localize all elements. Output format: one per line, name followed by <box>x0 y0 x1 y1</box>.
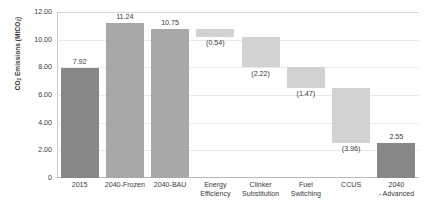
bar-value-label: (3.96) <box>342 144 361 153</box>
bar-column[interactable]: (1.47) <box>283 12 328 178</box>
x-axis-category-label: 2015 <box>57 181 102 190</box>
bar-value-label: 2.55 <box>389 132 403 141</box>
bar-series: 7.9211.2410.75(0.54)(2.22)(1.47)(3.96)2.… <box>57 12 419 178</box>
y-axis-tick-label: 10.00 <box>34 36 52 44</box>
y-axis-tick-label: 4.00 <box>38 119 52 127</box>
bar-column[interactable]: 11.24 <box>102 12 147 178</box>
bar-total[interactable] <box>61 68 99 178</box>
bar-value-label: 10.75 <box>161 18 179 27</box>
bar-value-label: (0.54) <box>206 38 225 47</box>
y-axis-title: CO2 Emissions (MtCO2) <box>14 0 21 109</box>
bar-column[interactable]: (2.22) <box>238 12 283 178</box>
bar-value-label: 7.92 <box>73 57 87 66</box>
plot-area: 02.004.006.008.0010.0012.00 7.9211.2410.… <box>57 12 419 178</box>
x-axis-category-labels: 20152040-Frozen2040-BAUEnergyEfficiencyC… <box>57 181 419 209</box>
y-axis-tick-label: 8.00 <box>38 63 52 71</box>
x-axis-category-label: 2040- Advanced <box>374 181 419 200</box>
y-axis-tick-label: 6.00 <box>38 91 52 99</box>
y-axis-tick-label: 2.00 <box>38 146 52 154</box>
y-axis-tick-label: 0 <box>48 174 52 182</box>
bar-delta[interactable] <box>242 37 280 68</box>
x-axis-category-label: 2040-Frozen <box>102 181 147 190</box>
bar-column[interactable]: (0.54) <box>193 12 238 178</box>
bar-total[interactable] <box>377 143 415 178</box>
x-axis-category-label: ClinkerSubstitution <box>238 181 283 200</box>
bar-column[interactable]: 2.55 <box>374 12 419 178</box>
x-axis-category-label: EnergyEfficiency <box>193 181 238 200</box>
bar-value-label: 11.24 <box>116 12 133 21</box>
x-axis-category-label: CCUS <box>329 181 374 190</box>
y-axis-tick-label: 12.00 <box>34 8 52 16</box>
bar-value-label: (1.47) <box>296 89 315 98</box>
bar-column[interactable]: 7.92 <box>57 12 102 178</box>
bar-total[interactable] <box>106 23 144 178</box>
bar-column[interactable]: (3.96) <box>329 12 374 178</box>
bar-delta[interactable] <box>196 29 234 36</box>
bar-value-label: (2.22) <box>251 69 270 78</box>
bar-delta[interactable] <box>332 88 370 143</box>
bar-delta[interactable] <box>287 67 325 87</box>
bar-total[interactable] <box>151 29 189 178</box>
x-axis-category-label: 2040-BAU <box>148 181 193 190</box>
bar-column[interactable]: 10.75 <box>148 12 193 178</box>
x-axis-category-label: FuelSwitching <box>283 181 328 200</box>
waterfall-chart: CO2 Emissions (MtCO2) 02.004.006.008.001… <box>0 0 430 209</box>
